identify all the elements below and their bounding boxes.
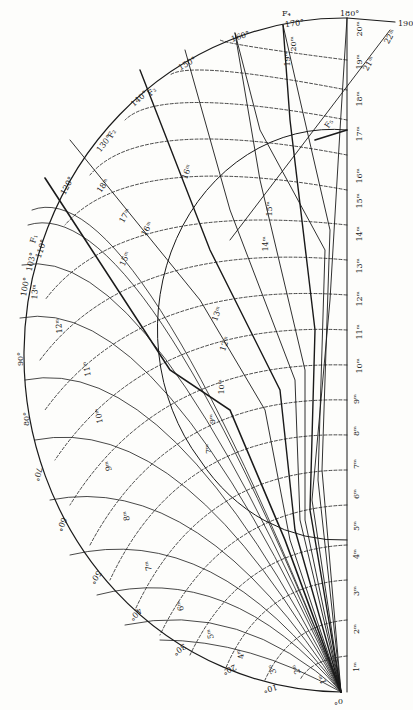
mantle-time-12: 12ᵐ	[55, 318, 64, 334]
axis-time-7: 7ᵐ	[353, 459, 361, 469]
axis-time-12: 12ᵐ	[356, 291, 364, 306]
axis-time-11: 11ᵐ	[356, 324, 364, 339]
axis-time-5: 5ᵐ	[353, 521, 361, 531]
upper-time-19: 19ᵐ	[284, 51, 292, 66]
mantle-time-9: 9ᵐ	[104, 460, 114, 471]
axis-time-15: 15ᵐ	[356, 193, 364, 208]
upper-time-20: 20ᵐ	[290, 36, 298, 51]
mantle-time-5: 5ᵐ	[206, 628, 216, 639]
axis-time-20: 20ᵐ	[356, 21, 364, 36]
mantle-time-13: 13ᵐ	[31, 284, 40, 300]
axis-time-6: 6ᵐ	[353, 489, 361, 499]
mantle-rays	[20, 207, 341, 692]
core-rays	[45, 18, 390, 692]
axis-time-1: 1ᵐ	[353, 662, 361, 672]
axis-time-13: 13ᵐ	[356, 258, 364, 273]
branch-f4: F₄	[282, 10, 291, 18]
distance-label-180: 180°	[340, 10, 359, 18]
axis-time-3: 3ᵐ	[353, 586, 361, 596]
axis-time-18: 18ᵐ	[356, 91, 364, 106]
axis-time-8: 8ᵐ	[353, 426, 361, 436]
earth-surface-arc	[24, 18, 395, 692]
mantle-time-7: 7ᵐ	[144, 560, 154, 571]
axis-time-2: 2ᵐ	[353, 624, 361, 634]
axis-time-14: 14ᵐ	[356, 226, 364, 241]
mantle-time-6: 6ᵐ	[176, 600, 186, 611]
axis-time-17: 17ᵐ	[356, 126, 364, 141]
axis-time-16: 16ᵐ	[356, 168, 364, 183]
core-time-9: 9ᵐ	[209, 414, 217, 424]
axis-time-9: 9ᵐ	[353, 394, 361, 404]
distance-label-0: 0°	[334, 697, 343, 705]
distance-label-90: 90°	[17, 352, 25, 366]
core-time-10: 10ᵐ	[218, 379, 226, 394]
axis-time-10: 10ᵐ	[356, 358, 364, 373]
core-time-7: 7ᵐ	[205, 444, 213, 454]
axis-time-4: 4ᵐ	[353, 549, 361, 559]
distance-label-80: 80°	[23, 412, 31, 426]
mantle-time-8: 8ᵐ	[122, 510, 132, 521]
core-time-15: 15ᵐ	[266, 201, 274, 216]
distance-label-190: 190	[398, 20, 413, 28]
core-time-14: 14ᵐ	[262, 236, 270, 251]
